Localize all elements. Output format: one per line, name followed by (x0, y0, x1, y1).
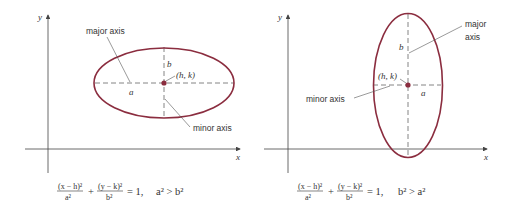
center-leader (166, 76, 175, 81)
major-axis-leader (409, 26, 462, 53)
eq-term2-denominator: b² (106, 193, 113, 202)
minor-axis-label: minor axis (306, 94, 345, 104)
semi-minor-label: b (167, 59, 172, 69)
eq-term2-numerator: (y − k)² (338, 182, 363, 191)
minor-axis-leader (354, 86, 390, 98)
center-label: (h, k) (378, 71, 397, 81)
y-axis-label: y (277, 12, 282, 22)
ellipse-diagram: x y a b (h, k) major axis minor axis (x … (0, 0, 513, 218)
major-axis-label-line1: major (465, 19, 486, 29)
y-axis-label: y (37, 12, 42, 22)
x-axis-label: x (483, 152, 488, 162)
eq-condition: b² > a² (398, 186, 425, 197)
center-leader (400, 79, 406, 83)
eq-condition: a² > b² (156, 186, 183, 197)
minor-axis-leader (165, 99, 190, 127)
semi-major-label: b (399, 42, 404, 52)
major-axis-label: major axis (86, 26, 125, 36)
center-point (161, 80, 166, 85)
eq-equals: = 1, (367, 186, 383, 197)
equation-horizontal: (x − h)² a² + (y − k)² b² = 1, a² > b² (57, 182, 183, 202)
eq-term2-denominator: b² (346, 193, 353, 202)
panel-vertical: x y b a (h, k) major axis minor axis (x … (264, 12, 488, 202)
center-point (405, 82, 410, 87)
eq-term1-denominator: a² (65, 193, 72, 202)
equation-vertical: (x − h)² a² + (y − k)² b² = 1, b² > a² (297, 182, 425, 202)
eq-term1-denominator: a² (305, 193, 312, 202)
semi-major-label: a (129, 87, 134, 97)
eq-term1-numerator: (x − h)² (58, 182, 83, 191)
center-label: (h, k) (176, 70, 195, 80)
minor-axis-label: minor axis (193, 123, 232, 133)
semi-minor-label: a (421, 88, 426, 98)
eq-plus: + (328, 186, 334, 197)
major-axis-leader (107, 37, 130, 82)
major-axis-label-line2: axis (465, 32, 480, 42)
eq-term2-numerator: (y − k)² (98, 182, 123, 191)
eq-equals: = 1, (127, 186, 143, 197)
x-axis-label: x (235, 152, 240, 162)
eq-term1-numerator: (x − h)² (298, 182, 323, 191)
panel-horizontal: x y a b (h, k) major axis minor axis (x … (25, 12, 240, 202)
eq-plus: + (88, 186, 94, 197)
